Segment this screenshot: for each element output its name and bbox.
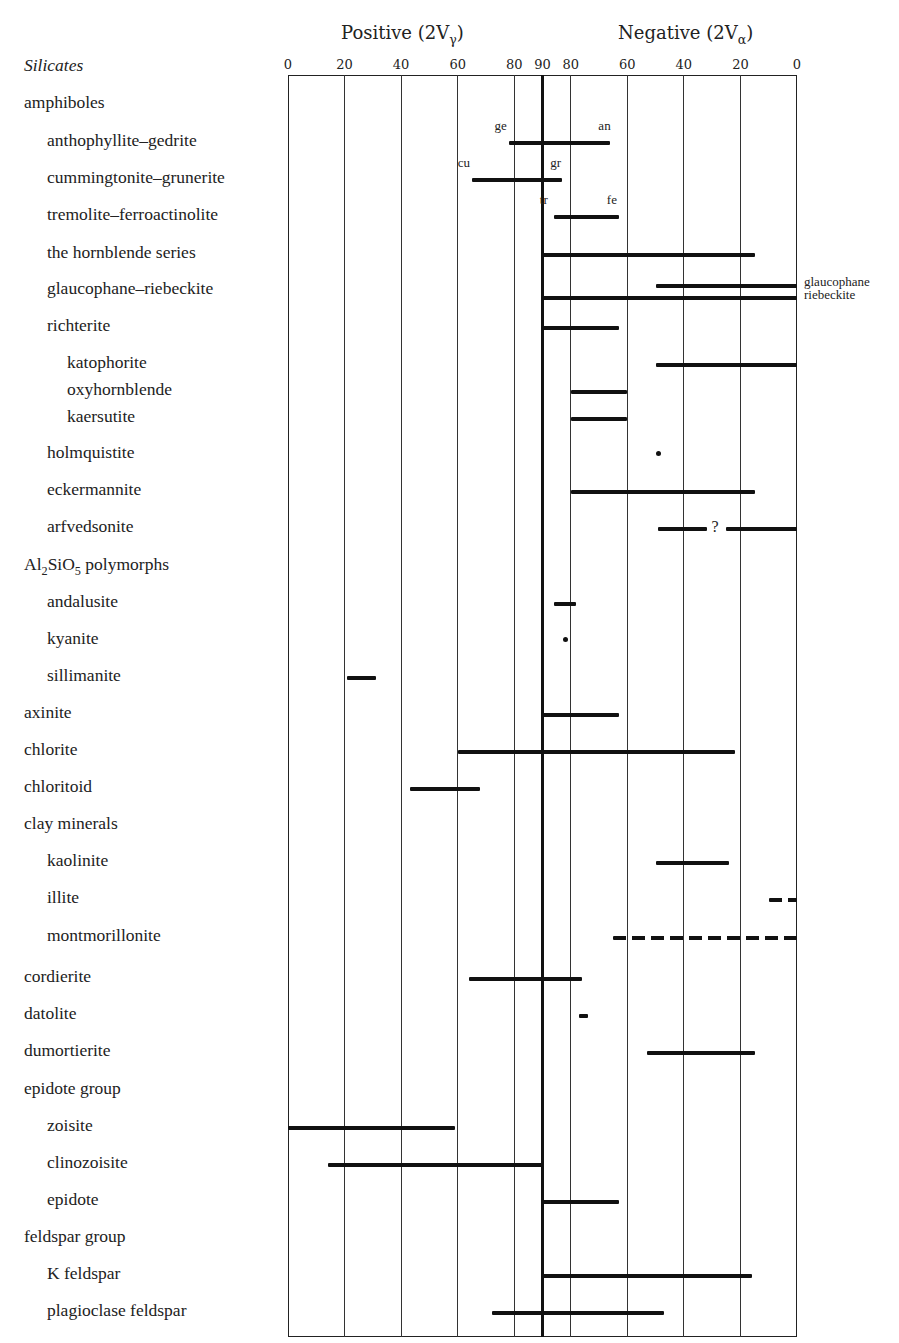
row-label: illite xyxy=(47,887,79,907)
range-bar xyxy=(288,1126,455,1130)
row-label: sillimanite xyxy=(47,665,121,685)
row-label: richterite xyxy=(47,315,110,335)
row-label: epidote xyxy=(47,1189,99,1209)
range-bar xyxy=(543,326,619,330)
end-member-label: cu xyxy=(458,155,470,171)
end-member-label: an xyxy=(598,118,610,134)
range-bar xyxy=(509,141,611,145)
row-label: chloritoid xyxy=(24,776,92,796)
row-label: anthophyllite–gedrite xyxy=(47,130,197,150)
row-label: katophorite xyxy=(67,352,147,372)
end-member-label: tr xyxy=(540,192,548,208)
end-member-label: ge xyxy=(495,118,507,134)
row-label: glaucophane–riebeckite xyxy=(47,278,213,298)
row-label: epidote group xyxy=(24,1078,121,1098)
range-bar xyxy=(726,527,797,531)
range-bar xyxy=(571,490,755,494)
row-label: arfvedsonite xyxy=(47,516,134,536)
negative-header: Negative (2Vα) xyxy=(618,22,753,47)
range-bar xyxy=(469,977,582,981)
range-bar xyxy=(656,861,730,865)
row-label: andalusite xyxy=(47,591,118,611)
x-tick-label: 60 xyxy=(449,57,466,72)
grid-line xyxy=(740,75,741,1337)
x-tick-label: 80 xyxy=(506,57,523,72)
grid-line xyxy=(401,75,402,1337)
range-bar xyxy=(410,787,481,791)
x-tick-label: 0 xyxy=(793,57,801,72)
row-label: axinite xyxy=(24,702,72,722)
x-tick-label: 20 xyxy=(336,57,353,72)
range-bar xyxy=(579,1014,587,1018)
range-bar xyxy=(656,363,797,367)
row-label: K feldspar xyxy=(47,1263,120,1283)
range-bar xyxy=(543,713,619,717)
range-bar xyxy=(769,898,797,902)
grid-line xyxy=(344,75,345,1337)
x-tick-label: 60 xyxy=(619,57,636,72)
center-90-line xyxy=(541,75,544,1337)
range-bar xyxy=(554,215,619,219)
row-label: kaersutite xyxy=(67,406,135,426)
point-marker xyxy=(563,637,568,642)
row-label: cordierite xyxy=(24,966,91,986)
row-label: oxyhornblende xyxy=(67,379,172,399)
x-tick-label: 40 xyxy=(393,57,410,72)
end-member-label: gr xyxy=(550,155,561,171)
row-label: dumortierite xyxy=(24,1040,111,1060)
range-bar xyxy=(658,527,706,531)
x-tick-label: 20 xyxy=(732,57,749,72)
end-member-label: fe xyxy=(607,192,617,208)
row-label: tremolite–ferroactinolite xyxy=(47,204,218,224)
row-label: the hornblende series xyxy=(47,242,196,262)
positive-header: Positive (2Vγ) xyxy=(341,22,464,47)
range-bar xyxy=(543,1200,619,1204)
row-label: chlorite xyxy=(24,739,77,759)
row-label: eckermannite xyxy=(47,479,141,499)
row-label: holmquistite xyxy=(47,442,135,462)
range-bar xyxy=(554,602,577,606)
row-label: clay minerals xyxy=(24,813,118,833)
row-label: amphiboles xyxy=(24,92,105,112)
range-bar xyxy=(458,750,735,754)
row-label: kyanite xyxy=(47,628,99,648)
range-bar xyxy=(647,1051,754,1055)
range-bar xyxy=(571,390,628,394)
range-bar xyxy=(543,253,755,257)
row-label: clinozoisite xyxy=(47,1152,128,1172)
x-tick-label: 80 xyxy=(562,57,579,72)
x-tick-label: 0 xyxy=(284,57,292,72)
range-bar xyxy=(492,1311,664,1315)
row-label: zoisite xyxy=(47,1115,93,1135)
row-header: Silicates xyxy=(24,55,83,75)
series-side-label: riebeckite xyxy=(804,287,855,303)
row-label: kaolinite xyxy=(47,850,108,870)
x-tick-label: 40 xyxy=(676,57,693,72)
range-bar xyxy=(543,1274,752,1278)
grid-line xyxy=(627,75,628,1337)
range-bar xyxy=(543,296,798,300)
grid-line xyxy=(683,75,684,1337)
row-label: cummingtonite–grunerite xyxy=(47,167,225,187)
point-marker xyxy=(656,451,661,456)
row-label: Al2SiO5 polymorphs xyxy=(24,554,169,581)
row-label: feldspar group xyxy=(24,1226,126,1246)
range-bar xyxy=(571,417,628,421)
range-bar xyxy=(347,676,375,680)
row-label: datolite xyxy=(24,1003,76,1023)
row-label: montmorillonite xyxy=(47,925,161,945)
grid-line xyxy=(457,75,458,1337)
range-bar xyxy=(613,936,797,940)
range-bar xyxy=(328,1163,543,1167)
uncertain-marker: ? xyxy=(711,517,718,537)
range-bar xyxy=(472,178,562,182)
row-label: plagioclase feldspar xyxy=(47,1300,186,1320)
grid-line xyxy=(570,75,571,1337)
range-bar xyxy=(656,284,797,288)
x-tick-label: 90 xyxy=(534,57,551,72)
grid-line xyxy=(514,75,515,1337)
